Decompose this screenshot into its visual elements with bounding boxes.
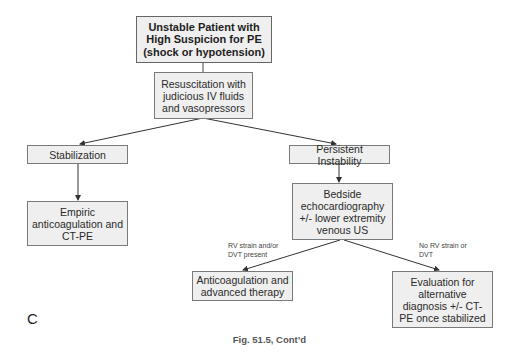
node-persistent-instability: Persistent Instability (289, 145, 390, 164)
node-start: Unstable Patient with High Suspicion for… (136, 16, 272, 63)
edge-resuscitation-to-stabilization (80, 118, 203, 144)
node-empiric: Empiric anticoagulation and CT-PE (27, 201, 128, 246)
edge-label-rv-strain-present: RV strain and/or DVT present (228, 241, 292, 259)
node-bedside-echo: Bedside echocardiography +/- lower extre… (292, 183, 393, 240)
figure-caption-row: Fig. 51.5, Cont’d (0, 334, 521, 345)
node-anticoag-advanced: Anticoagulation and advanced therapy (192, 271, 293, 301)
node-stabilization: Stabilization (27, 145, 128, 164)
edge-resuscitation-to-persistent (203, 118, 336, 144)
node-resuscitation: Resuscitation with judicious IV fluids a… (154, 72, 253, 119)
edge-label-no-rv-strain: No RV strain or DVT (419, 241, 475, 259)
panel-letter: C (27, 310, 38, 327)
node-evaluation-alt: Evaluation for alternative diagnosis +/-… (392, 271, 493, 328)
figure-caption: Fig. 51.5, Cont’d (233, 334, 306, 345)
